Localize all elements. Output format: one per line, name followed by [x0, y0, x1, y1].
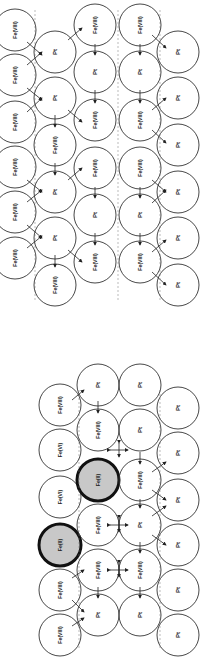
atom-pt: Pt: [119, 51, 161, 93]
atom-label: Fe(VIII): [92, 253, 98, 271]
atom-label: Pt: [137, 427, 143, 433]
atom-label: Pt: [137, 612, 143, 618]
atom-label: Pt: [175, 497, 181, 503]
atom-pt: Pt: [119, 594, 161, 636]
atom-fe: Fe(VIII): [119, 459, 161, 501]
atom-fe: Fe(VIII): [119, 4, 161, 46]
atom-label: Fe(VIII): [57, 396, 63, 414]
atom-pt: Pt: [74, 194, 116, 236]
atom-circle: [0, 101, 36, 143]
atom-label: Pt: [175, 587, 181, 593]
crystal-lattice-figure: Fe(VIII)Fe(VIII)Fe(VIII)Fe(VIII)Fe(VIII)…: [0, 0, 221, 663]
atom-label: Pt: [52, 189, 58, 195]
atom-label: Pt: [137, 212, 143, 218]
atom-label: Fe(VIII): [137, 16, 143, 34]
atom-label: Pt: [92, 69, 98, 75]
atom-label: Pt: [175, 542, 181, 548]
atom-label: Fe(VIII): [137, 111, 143, 129]
atom-fe: Fe(VIII): [39, 614, 81, 656]
atom-fe: Fe(VIII): [39, 569, 81, 611]
atom-label: Fe(VIII): [137, 471, 143, 489]
atom-fe: Fe(VIII): [0, 237, 36, 279]
atom-pt: Pt: [157, 264, 199, 306]
atom-pt: Pt: [157, 524, 199, 566]
atom-fe: Fe(VIII): [34, 124, 76, 166]
atom-fe: Fe(VIII): [0, 54, 36, 96]
atom-label: Fe(VI): [57, 490, 63, 505]
top-lattice-panel: Fe(VIII)Fe(VIII)Fe(VIII)Fe(VIII)Fe(VIII)…: [0, 4, 199, 306]
atom-pt: Pt: [34, 217, 76, 259]
atom-pt: Pt: [157, 479, 199, 521]
atom-fe: Fe(VIII): [74, 147, 116, 189]
atom-label: Fe(VIII): [12, 203, 18, 221]
atom-label: Pt: [52, 95, 58, 101]
atom-label: Pt: [175, 282, 181, 288]
atom-pt: Pt: [34, 171, 76, 213]
atom-fe: Fe(VI): [39, 429, 81, 471]
atom-label: Pt: [175, 95, 181, 101]
atom-pt: Pt: [157, 569, 199, 611]
atom-label: Fe(VIII): [12, 113, 18, 131]
atom-label: Fe(VIII): [137, 561, 143, 579]
atom-label: Fe(VIII): [92, 16, 98, 34]
atom-label: Fe(VIII): [137, 253, 143, 271]
atom-label: Fe(VIII): [12, 158, 18, 176]
atom-label: Fe(VI): [57, 443, 63, 458]
atom-label: Pt: [137, 522, 143, 528]
atom-pt: Pt: [119, 409, 161, 451]
atom-label: Pt: [52, 49, 58, 55]
atom-pt: Pt: [157, 432, 199, 474]
atom-fe: Fe(VIII): [77, 409, 119, 451]
atom-label: Pt: [95, 382, 101, 388]
atom-pt: Pt: [157, 77, 199, 119]
atom-circle: [0, 54, 36, 96]
atom-circle: [0, 191, 36, 233]
atom-label: Pt: [175, 235, 181, 241]
atom-fe-highlighted: Fe(II): [77, 459, 119, 501]
atom-fe: Fe(VIII): [0, 101, 36, 143]
atom-pt: Pt: [157, 614, 199, 656]
atom-fe: Fe(VI): [39, 476, 81, 518]
atom-label: Pt: [175, 142, 181, 148]
atom-circle: [0, 146, 36, 188]
atom-label: Fe(VIII): [92, 159, 98, 177]
atom-label: Fe(VIII): [92, 111, 98, 129]
atom-label: Pt: [137, 69, 143, 75]
atom-label: Fe(VIII): [52, 136, 58, 154]
atom-label: Pt: [175, 450, 181, 456]
atom-label: Fe(VIII): [52, 276, 58, 294]
atom-label: Fe(VIII): [12, 249, 18, 267]
atom-fe: Fe(VIII): [0, 146, 36, 188]
atom-fe: Fe(VIII): [119, 99, 161, 141]
atom-pt: Pt: [119, 364, 161, 406]
atom-pt: Pt: [157, 217, 199, 259]
atom-circle: [0, 237, 36, 279]
atom-pt: Pt: [34, 77, 76, 119]
atom-fe: Fe(VIII): [74, 4, 116, 46]
atom-label: Pt: [137, 382, 143, 388]
atom-pt: Pt: [157, 387, 199, 429]
atom-pt: Pt: [157, 124, 199, 166]
atom-label: Fe(VIII): [137, 159, 143, 177]
atom-label: Fe(II): [57, 539, 63, 552]
atom-label: Pt: [175, 632, 181, 638]
atom-label: Fe(VIII): [95, 561, 101, 579]
atom-label: Fe(VIII): [12, 66, 18, 84]
atom-label: Fe(VIII): [57, 626, 63, 644]
atom-label: Fe(VIII): [57, 581, 63, 599]
atom-label: Pt: [52, 235, 58, 241]
atom-label: Fe(II): [95, 474, 101, 487]
atom-label: Pt: [175, 189, 181, 195]
bottom-lattice-panel: Fe(VIII)Fe(VI)Fe(VI)Fe(II)Fe(VIII)Fe(VII…: [39, 364, 199, 656]
lattice-canvas: Fe(VIII)Fe(VIII)Fe(VIII)Fe(VIII)Fe(VIII)…: [0, 0, 221, 663]
atom-pt: Pt: [34, 31, 76, 73]
atom-fe: Fe(VIII): [34, 264, 76, 306]
atom-label: Pt: [175, 49, 181, 55]
atom-fe: Fe(VIII): [74, 99, 116, 141]
atom-fe: Fe(VIII): [74, 241, 116, 283]
atom-label: Pt: [175, 405, 181, 411]
atom-pt: Pt: [77, 364, 119, 406]
atom-label: Fe(VIII): [95, 516, 101, 534]
atom-pt: Pt: [77, 594, 119, 636]
atom-fe: Fe(VIII): [119, 241, 161, 283]
